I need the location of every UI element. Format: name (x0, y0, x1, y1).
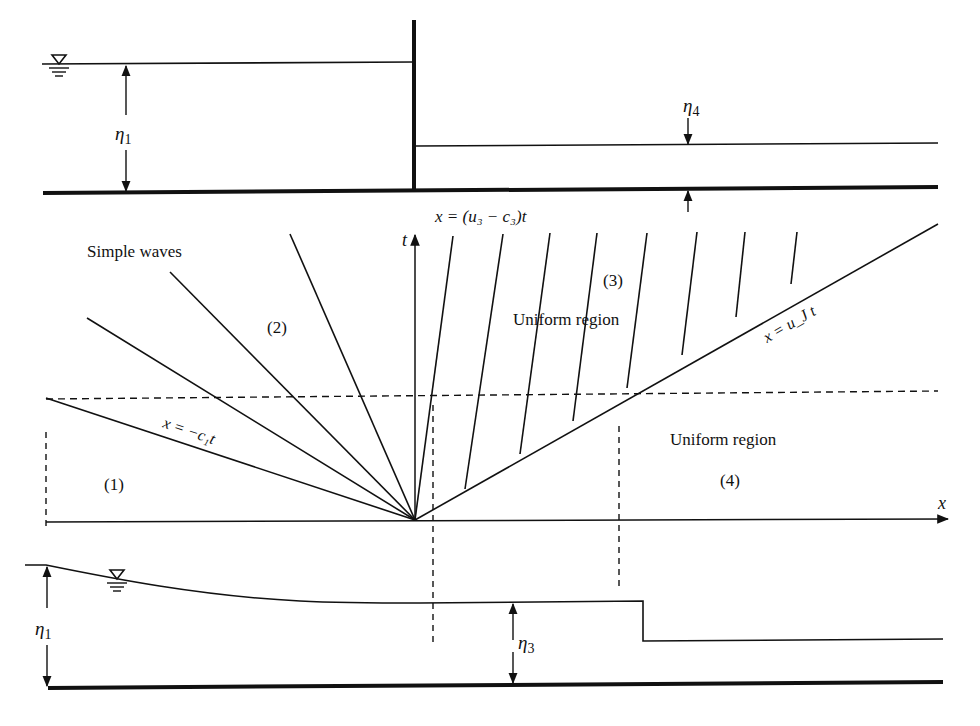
channel-bed-top (43, 187, 938, 193)
region3-characteristics (465, 232, 797, 489)
eta4-label: η4 (683, 95, 699, 119)
bore-path (415, 224, 938, 520)
simple-waves-label: Simple waves (87, 242, 182, 261)
time-level-dashed-line (46, 391, 938, 399)
characteristic-plane: x t Simple waves (2 (46, 207, 948, 645)
free-surface-symbol (49, 55, 69, 76)
tail-characteristic-label: x = (u₃ − c₃)t (434, 207, 528, 226)
head-characteristic-label: x = −c₁t (160, 413, 218, 447)
eta3-label: η3 (518, 632, 534, 656)
x-axis (46, 519, 948, 522)
region2-label: (2) (267, 318, 287, 337)
reservoir-surface (42, 62, 413, 64)
region4-label: (4) (720, 471, 740, 490)
region3-label: (3) (603, 271, 623, 290)
top-panel: η1 η4 (42, 20, 938, 212)
eta1-label: η1 (115, 123, 131, 147)
region1-label: (1) (104, 475, 124, 494)
dam-break-diagram: η1 η4 x t (0, 0, 980, 726)
t-axis-label: t (402, 230, 408, 250)
channel-bed-bottom (48, 682, 943, 688)
uniform-region-4-label: Uniform region (670, 430, 777, 449)
tailwater-surface (416, 143, 938, 146)
water-surface-profile (25, 565, 943, 641)
uniform-region-3-label: Uniform region (513, 310, 620, 329)
x-axis-label: x (937, 493, 946, 513)
eta1-bottom-label: η1 (35, 618, 51, 642)
bottom-panel: η1 η3 (25, 565, 943, 688)
